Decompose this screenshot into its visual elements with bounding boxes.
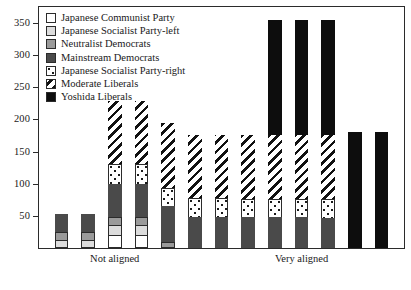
y-axis-tick-label: 250 bbox=[14, 80, 30, 93]
bar-segment bbox=[81, 214, 95, 233]
bar-segment bbox=[161, 123, 175, 188]
x-axis-label: Very aligned bbox=[275, 252, 328, 266]
bar-segment bbox=[295, 217, 309, 248]
bar-segment bbox=[348, 132, 362, 248]
bar-segment bbox=[135, 184, 149, 217]
bar-stack bbox=[188, 135, 202, 248]
y-axis-tick-label: 150 bbox=[14, 145, 30, 158]
y-axis-tick-label: 300 bbox=[14, 48, 30, 61]
bar-segment bbox=[268, 135, 282, 199]
legend-swatch-white bbox=[46, 13, 56, 23]
bar-segment bbox=[135, 101, 149, 164]
bar-segment bbox=[241, 199, 255, 218]
legend-item: Japanese Communist Party bbox=[46, 12, 185, 24]
bar-segment bbox=[375, 132, 389, 248]
bar-stack bbox=[295, 20, 309, 248]
bar-stack bbox=[268, 20, 282, 248]
legend-item-label: Neutralist Democrats bbox=[61, 38, 151, 50]
legend-swatch-dots bbox=[46, 66, 56, 76]
bar-stack bbox=[108, 101, 122, 248]
bar-stack bbox=[55, 214, 69, 248]
bar-segment bbox=[108, 184, 122, 217]
legend-item: Moderate Liberals bbox=[46, 78, 185, 90]
y-axis: 50100150200250300350 bbox=[0, 6, 38, 249]
y-axis-tick-label: 200 bbox=[14, 112, 30, 125]
bar-stack bbox=[215, 135, 229, 248]
legend-item-label: Moderate Liberals bbox=[61, 78, 138, 90]
legend-item: Mainstream Democrats bbox=[46, 52, 185, 64]
bar-segment bbox=[188, 217, 202, 248]
bar-stack bbox=[321, 20, 335, 248]
bar-segment bbox=[108, 235, 122, 248]
legend-item: Yoshida Liberals bbox=[46, 91, 185, 103]
bar-segment bbox=[295, 199, 309, 218]
bar-segment bbox=[135, 164, 149, 185]
bar-segment bbox=[108, 164, 122, 185]
bar-segment bbox=[321, 20, 335, 135]
bar-stack bbox=[241, 135, 255, 248]
legend-item: Japanese Socialist Party-left bbox=[46, 25, 185, 37]
x-axis: Not alignedVery aligned bbox=[38, 252, 405, 272]
legend-swatch-ltgray bbox=[46, 26, 56, 36]
stacked-bar-chart: 50100150200250300350 Not alignedVery ali… bbox=[0, 0, 411, 290]
bar-segment bbox=[81, 240, 95, 248]
bar-segment bbox=[241, 217, 255, 248]
bar-segment bbox=[161, 188, 175, 207]
legend-item-label: Japanese Socialist Party-left bbox=[61, 25, 179, 37]
legend-item: Neutralist Democrats bbox=[46, 38, 185, 50]
bar-segment bbox=[268, 20, 282, 135]
bar-segment bbox=[268, 217, 282, 248]
bar-segment bbox=[321, 218, 335, 248]
bar-segment bbox=[161, 242, 175, 248]
bar-segment bbox=[241, 135, 255, 199]
legend: Japanese Communist PartyJapanese Sociali… bbox=[46, 12, 185, 103]
bar-stack bbox=[161, 123, 175, 248]
y-axis-tick-label: 50 bbox=[19, 209, 30, 222]
bar-segment bbox=[295, 135, 309, 199]
x-axis-label: Not aligned bbox=[90, 252, 139, 266]
legend-item-label: Yoshida Liberals bbox=[61, 91, 132, 103]
bar-segment bbox=[55, 240, 69, 248]
legend-swatch-dkgray bbox=[46, 53, 56, 63]
bar-segment bbox=[321, 135, 335, 199]
bar-stack bbox=[81, 214, 95, 248]
bar-segment bbox=[55, 214, 69, 233]
y-axis-tick-label: 100 bbox=[14, 177, 30, 190]
y-axis-tick-label: 350 bbox=[14, 16, 30, 29]
bar-segment bbox=[188, 198, 202, 217]
bar-segment bbox=[295, 20, 309, 135]
bar-segment bbox=[161, 206, 175, 242]
bar-stack bbox=[375, 132, 389, 248]
bar-segment bbox=[321, 199, 335, 219]
bar-segment bbox=[108, 101, 122, 164]
legend-item-label: Japanese Socialist Party-right bbox=[61, 65, 185, 77]
bar-stack bbox=[135, 101, 149, 248]
bar-segment bbox=[268, 199, 282, 218]
bar-segment bbox=[188, 135, 202, 199]
bar-segment bbox=[215, 198, 229, 217]
legend-item-label: Mainstream Democrats bbox=[61, 52, 159, 64]
legend-item: Japanese Socialist Party-right bbox=[46, 65, 185, 77]
bar-segment bbox=[215, 135, 229, 199]
legend-swatch-mdgray bbox=[46, 39, 56, 49]
bar-stack bbox=[348, 132, 362, 248]
legend-swatch-black bbox=[46, 92, 56, 102]
bar-segment bbox=[135, 235, 149, 248]
legend-item-label: Japanese Communist Party bbox=[61, 12, 175, 24]
legend-swatch-hatch bbox=[46, 79, 56, 89]
bar-segment bbox=[215, 217, 229, 248]
